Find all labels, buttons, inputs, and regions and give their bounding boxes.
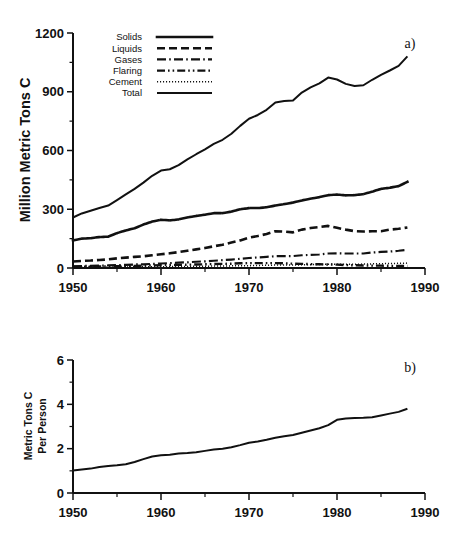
panel-b-y-axis-title-line2: Per Person — [36, 398, 48, 453]
x-tick-label: 1960 — [147, 280, 176, 295]
y-tick-label: 4 — [57, 397, 65, 412]
y-tick-label: 1200 — [35, 26, 64, 41]
panel-a-tag: a) — [405, 36, 416, 52]
panel-b-per-capita: 0246 19501960197019801990 Metric Tons C … — [0, 330, 464, 548]
x-tick-label: 1970 — [235, 280, 264, 295]
panel-b-x-ticks — [73, 493, 425, 500]
x-tick-label: 1980 — [323, 505, 352, 520]
legend-label: Solids — [116, 31, 142, 42]
x-tick-label: 1960 — [147, 505, 176, 520]
y-tick-label: 2 — [57, 441, 64, 456]
series-flaring — [73, 263, 407, 267]
panel-a-plot: 03006009001200 19501960197019801990 Mill… — [0, 0, 464, 320]
panel-b-y-axis-title-line1: Metric Tons C — [22, 391, 34, 460]
figure-container: 03006009001200 19501960197019801990 Mill… — [0, 0, 464, 548]
x-tick-label: 1950 — [59, 505, 88, 520]
x-tick-label: 1980 — [323, 280, 352, 295]
panel-a-y-ticks — [67, 33, 73, 268]
y-tick-label: 900 — [42, 84, 64, 99]
panel-b-tag: b) — [404, 360, 416, 376]
x-tick-label: 1950 — [59, 280, 88, 295]
y-tick-label: 300 — [42, 202, 64, 217]
panel-b-x-tick-labels: 19501960197019801990 — [59, 505, 440, 520]
panel-b-series-group — [73, 409, 407, 471]
legend-label: Cement — [109, 76, 143, 87]
panel-b-y-tick-labels: 0246 — [57, 353, 65, 501]
x-tick-label: 1970 — [235, 505, 264, 520]
panel-a-emissions-by-source: 03006009001200 19501960197019801990 Mill… — [0, 0, 464, 320]
legend-label: Flaring — [113, 65, 142, 76]
panel-a-legend: SolidsLiquidsGasesFlaringCementTotal — [109, 31, 212, 98]
y-tick-label: 0 — [57, 261, 64, 276]
panel-b-axes — [73, 360, 425, 493]
y-tick-label: 0 — [57, 486, 64, 501]
legend-label: Gases — [115, 54, 143, 65]
panel-a-y-axis-title: Million Metric Tons C — [17, 77, 33, 222]
x-tick-label: 1990 — [411, 280, 440, 295]
legend-label: Total — [122, 87, 142, 98]
y-tick-label: 6 — [57, 353, 64, 368]
series-per-capita-emissions — [73, 409, 407, 471]
panel-b-plot: 0246 19501960197019801990 Metric Tons C … — [0, 330, 464, 548]
y-tick-label: 600 — [42, 143, 64, 158]
panel-a-y-tick-labels: 03006009001200 — [35, 26, 64, 276]
legend-label: Liquids — [112, 43, 142, 54]
panel-a-x-ticks — [73, 268, 425, 275]
panel-b-y-ticks — [67, 360, 73, 493]
x-tick-label: 1990 — [411, 505, 440, 520]
panel-a-x-tick-labels: 19501960197019801990 — [59, 280, 440, 295]
